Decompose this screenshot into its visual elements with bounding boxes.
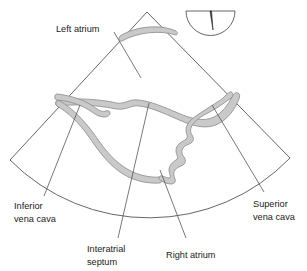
label-right-atrium: Right atrium xyxy=(166,250,216,260)
ultrasound-diagram: Left atrium Inferior vena cava Superior … xyxy=(0,0,307,271)
figure-canvas: Left atrium Inferior vena cava Superior … xyxy=(0,0,307,271)
label-superior-vena-cava-line2: vena cava xyxy=(253,212,296,222)
label-interatrial-septum-line1: Interatrial xyxy=(87,244,125,254)
sector-outline xyxy=(10,12,290,218)
label-inferior-vena-cava-line1: Inferior xyxy=(14,201,43,211)
label-left-atrium: Left atrium xyxy=(56,24,100,34)
transducer-orientation-icon xyxy=(186,11,235,36)
label-inferior-vena-cava-line2: vena cava xyxy=(14,214,57,224)
scan-sector xyxy=(10,12,290,218)
label-interatrial-septum-line2: septum xyxy=(87,257,117,267)
label-superior-vena-cava-line1: Superior xyxy=(253,199,288,209)
